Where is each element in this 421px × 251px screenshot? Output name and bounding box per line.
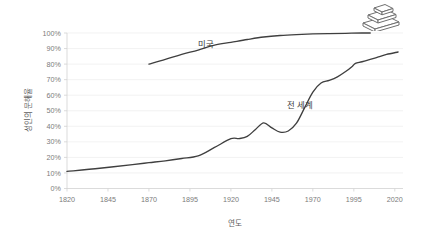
y-tick-label: 70% [47,75,62,84]
gridlines [67,33,403,173]
x-tick-label: 1920 [223,195,239,204]
y-tick-label: 10% [47,169,62,178]
y-tick-label: 80% [47,60,62,69]
x-tick-label: 1820 [59,195,75,204]
series-lines [67,33,398,171]
y-tick-label: 60% [47,91,62,100]
x-tick-marks [67,189,395,192]
y-tick-label: 50% [47,106,62,115]
x-tick-label: 1970 [305,195,321,204]
y-tick-marks [64,33,67,189]
y-tick-label: 40% [47,122,62,131]
literacy-rate-chart: 0%10%20%30%40%50%60%70%80%90%100% 182018… [0,0,421,251]
y-tick-label: 30% [47,137,62,146]
y-tick-label: 0% [51,184,62,193]
series-label: 미국 [198,39,214,49]
series-labels: 미국전 세계 [198,39,313,110]
x-tick-label: 1945 [264,195,280,204]
x-tick-label: 1995 [346,195,362,204]
y-tick-labels: 0%10%20%30%40%50%60%70%80%90%100% [43,29,62,194]
y-axis-title: 성인의 문해율 [23,88,33,132]
x-tick-label: 1845 [100,195,116,204]
series-label: 전 세계 [287,100,313,110]
x-tick-label: 1870 [141,195,157,204]
y-tick-label: 100% [43,29,62,38]
x-tick-labels: 182018451870189519201945197019952020 [59,195,403,204]
x-tick-label: 2020 [387,195,403,204]
chart-canvas: 0%10%20%30%40%50%60%70%80%90%100% 182018… [0,0,421,251]
x-axis-title: 연도 [228,219,242,228]
series-line-전 세계 [67,52,398,171]
x-tick-label: 1895 [182,195,198,204]
y-tick-label: 20% [47,153,62,162]
y-tick-label: 90% [47,44,62,53]
